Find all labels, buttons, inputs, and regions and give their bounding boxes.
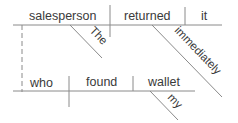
sentence-diagram: salesperson returned it The immediately … [0, 0, 238, 123]
word-salesperson: salesperson [29, 9, 96, 23]
word-who: who [29, 76, 53, 90]
word-the: The [88, 24, 110, 47]
word-it: it [201, 9, 208, 23]
word-wallet: wallet [147, 75, 180, 89]
word-my: my [166, 91, 185, 111]
word-immediately: immediately [173, 24, 224, 77]
word-returned: returned [124, 9, 171, 23]
word-found: found [86, 75, 117, 89]
